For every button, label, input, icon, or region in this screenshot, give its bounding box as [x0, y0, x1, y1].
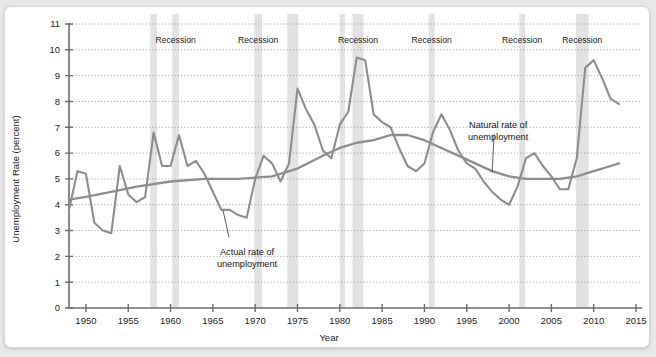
annotations-group: Actual rate ofunemploymentNatural rate o…	[217, 120, 529, 269]
y-tick-label: 7	[55, 122, 60, 133]
x-axis-title: Year	[319, 332, 338, 343]
annotation-leader-actual	[223, 210, 229, 237]
y-tick-label: 6	[55, 147, 60, 158]
recession-label: Recession	[412, 35, 452, 45]
x-tick-label: 1975	[287, 315, 308, 326]
recession-label: Recession	[562, 35, 602, 45]
y-tick-label: 11	[50, 18, 60, 29]
recession-band	[576, 14, 589, 308]
recession-band	[340, 14, 345, 308]
recession-label: Recession	[338, 35, 378, 45]
annotation-natural-line2: unemployment	[468, 132, 529, 142]
y-axis-title: Unemployment Rate (percent)	[10, 115, 21, 242]
x-tick-label: 2005	[541, 315, 562, 326]
x-tick-label: 1955	[118, 315, 139, 326]
x-tick-label: 1965	[202, 315, 223, 326]
y-tick-label: 8	[55, 96, 60, 107]
recession-label: Recession	[238, 35, 278, 45]
y-tick-label: 5	[55, 173, 60, 184]
annotation-actual-line1: Actual rate of	[220, 247, 275, 257]
recession-band	[429, 14, 435, 308]
x-tick-label: 1970	[245, 315, 266, 326]
x-tick-label: 2010	[583, 315, 604, 326]
chart-card: 01234567891011 1950195519601965197019751…	[4, 6, 650, 348]
annotation-natural-line1: Natural rate of	[469, 120, 528, 130]
unemployment-chart-figure: 01234567891011 1950195519601965197019751…	[5, 7, 649, 347]
x-tick-label: 1980	[329, 315, 350, 326]
y-tick-label: 2	[55, 251, 60, 262]
annotation-actual-line2: unemployment	[217, 259, 278, 269]
y-tick-label: 9	[55, 70, 60, 81]
y-tick-label: 0	[55, 302, 60, 313]
y-tick-label: 1	[55, 277, 60, 288]
recession-band	[150, 14, 157, 308]
y-tick-labels-group: 01234567891011	[49, 18, 60, 313]
x-tick-label: 1990	[414, 315, 435, 326]
x-tick-label: 2015	[625, 315, 646, 326]
x-tick-label: 2000	[498, 315, 519, 326]
unemployment-line-chart: 01234567891011 1950195519601965197019751…	[5, 7, 649, 347]
x-tick-label: 1960	[160, 315, 181, 326]
recession-labels-group: RecessionRecessionRecessionRecessionRece…	[156, 35, 603, 45]
x-tick-label: 1995	[456, 315, 477, 326]
y-tick-label: 10	[49, 44, 60, 55]
recession-label: Recession	[502, 35, 542, 45]
y-tick-label: 4	[55, 199, 60, 210]
y-tick-label: 3	[55, 225, 60, 236]
recession-label: Recession	[156, 35, 196, 45]
recession-band	[172, 14, 179, 308]
x-tick-label: 1985	[372, 315, 393, 326]
x-tick-label: 1950	[75, 315, 96, 326]
x-tick-labels-group: 1950195519601965197019751980198519901995…	[75, 315, 646, 326]
